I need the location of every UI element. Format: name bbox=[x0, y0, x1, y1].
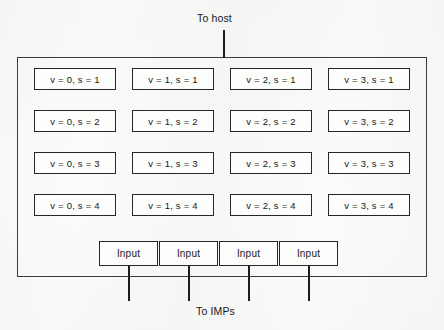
queue-state-box[interactable]: v = 2, s = 2 bbox=[230, 110, 312, 132]
queue-state-grid: v = 0, s = 1 v = 1, s = 1 v = 2, s = 1 v… bbox=[34, 68, 412, 216]
to-host-connector-line bbox=[223, 30, 225, 58]
queue-state-box[interactable]: v = 2, s = 1 bbox=[230, 68, 312, 90]
imp-connector-line bbox=[188, 266, 190, 301]
queue-state-box[interactable]: v = 2, s = 4 bbox=[230, 194, 312, 216]
queue-state-box[interactable]: v = 1, s = 2 bbox=[132, 110, 214, 132]
queue-state-box[interactable]: v = 1, s = 3 bbox=[132, 152, 214, 174]
input-box[interactable]: Input bbox=[159, 241, 218, 266]
input-box[interactable]: Input bbox=[99, 241, 158, 266]
queue-state-box[interactable]: v = 1, s = 1 bbox=[132, 68, 214, 90]
imp-connector-line bbox=[308, 266, 310, 301]
imp-connector-line bbox=[248, 266, 250, 301]
queue-state-box[interactable]: v = 3, s = 4 bbox=[328, 194, 410, 216]
diagram-canvas: To host v = 0, s = 1 v = 1, s = 1 v = 2,… bbox=[0, 0, 444, 330]
input-box[interactable]: Input bbox=[219, 241, 278, 266]
queue-state-box[interactable]: v = 3, s = 1 bbox=[328, 68, 410, 90]
input-box[interactable]: Input bbox=[279, 241, 338, 266]
queue-state-box[interactable]: v = 0, s = 1 bbox=[34, 68, 116, 90]
queue-state-box[interactable]: v = 0, s = 3 bbox=[34, 152, 116, 174]
imp-connector-line bbox=[128, 266, 130, 301]
to-imps-label: To IMPs bbox=[196, 305, 235, 317]
to-host-label: To host bbox=[197, 12, 232, 24]
queue-state-box[interactable]: v = 3, s = 2 bbox=[328, 110, 410, 132]
queue-state-box[interactable]: v = 1, s = 4 bbox=[132, 194, 214, 216]
input-box-row: Input Input Input Input bbox=[99, 241, 338, 266]
queue-state-box[interactable]: v = 0, s = 2 bbox=[34, 110, 116, 132]
queue-state-box[interactable]: v = 0, s = 4 bbox=[34, 194, 116, 216]
queue-state-box[interactable]: v = 3, s = 3 bbox=[328, 152, 410, 174]
queue-state-box[interactable]: v = 2, s = 3 bbox=[230, 152, 312, 174]
